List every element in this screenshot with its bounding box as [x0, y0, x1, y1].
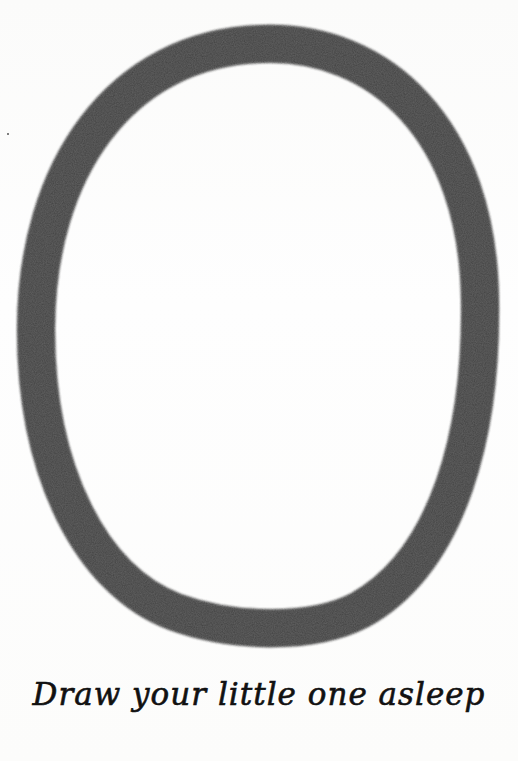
- oval-stroke: [36, 44, 480, 628]
- oval-drawing-frame: [0, 0, 518, 761]
- activity-caption: Draw your little one asleep: [0, 676, 518, 712]
- paper-speck: [7, 133, 9, 135]
- activity-page: Draw your little one asleep: [0, 0, 518, 761]
